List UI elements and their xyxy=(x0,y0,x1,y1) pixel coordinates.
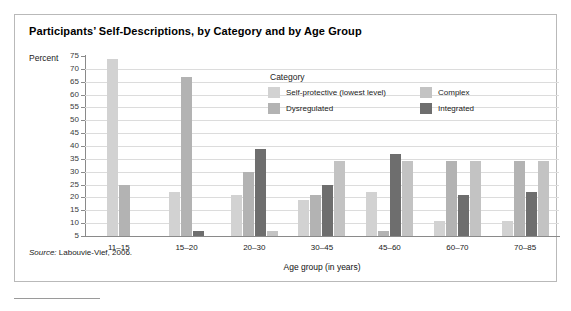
legend-item-dysregulated: Dysregulated xyxy=(268,103,420,114)
bar xyxy=(193,231,204,236)
y-tick-label: 50 xyxy=(59,115,79,124)
footer-divider xyxy=(14,298,100,299)
y-tick-label: 75 xyxy=(59,51,79,60)
x-tick-label: 45–60 xyxy=(356,243,424,252)
legend-swatch-complex xyxy=(420,87,432,98)
bar xyxy=(298,200,309,236)
bar-group xyxy=(153,56,221,236)
gridline xyxy=(85,236,559,237)
y-tick-label: 70 xyxy=(59,64,79,73)
bar xyxy=(366,192,377,236)
legend-swatch-dysregulated xyxy=(268,103,280,114)
source-text: Labouvie-Vief, 2006. xyxy=(59,248,132,257)
chart-figure: Participants’ Self-Descriptions, by Cate… xyxy=(0,0,571,311)
bar xyxy=(446,161,457,236)
bar xyxy=(243,172,254,236)
figure-card: Participants’ Self-Descriptions, by Cate… xyxy=(14,14,557,282)
legend-item-self-protective: Self-protective (lowest level) xyxy=(268,87,420,98)
source-prefix: Source: xyxy=(29,248,57,257)
legend-label-dysregulated: Dysregulated xyxy=(286,104,333,113)
legend-swatch-self-protective xyxy=(268,87,280,98)
y-tick-label: 20 xyxy=(59,192,79,201)
x-tick-label: 30–45 xyxy=(288,243,356,252)
legend-label-complex: Complex xyxy=(438,88,470,97)
y-axis-label: Percent xyxy=(29,53,58,63)
x-tick-label: 15–20 xyxy=(153,243,221,252)
legend-row: Dysregulated Integrated xyxy=(268,103,518,114)
bar-group xyxy=(85,56,153,236)
y-tick-label: 40 xyxy=(59,141,79,150)
x-tick-label: 20–30 xyxy=(220,243,288,252)
bar xyxy=(310,195,321,236)
bar xyxy=(458,195,469,236)
x-axis-title: Age group (in years) xyxy=(85,262,559,272)
bar xyxy=(322,185,333,236)
bar xyxy=(434,221,445,236)
y-tick-label: 35 xyxy=(59,154,79,163)
bar xyxy=(255,149,266,236)
bar xyxy=(470,161,481,236)
bar xyxy=(390,154,401,236)
legend-item-complex: Complex xyxy=(420,87,470,98)
legend-swatch-integrated xyxy=(420,103,432,114)
bar xyxy=(538,161,549,236)
legend-label-integrated: Integrated xyxy=(438,104,474,113)
source-note: Source: Labouvie-Vief, 2006. xyxy=(29,248,132,257)
y-tick-label: 25 xyxy=(59,180,79,189)
bar xyxy=(231,195,242,236)
bar xyxy=(267,231,278,236)
y-tick-label: 10 xyxy=(59,218,79,227)
legend-item-integrated: Integrated xyxy=(420,103,474,114)
plot-area: Category Self-protective (lowest level) … xyxy=(85,56,559,236)
y-tick-label: 5 xyxy=(59,231,79,240)
y-tick-label: 55 xyxy=(59,102,79,111)
bar xyxy=(514,161,525,236)
y-tick-label: 15 xyxy=(59,205,79,214)
y-tick-label: 30 xyxy=(59,167,79,176)
bar xyxy=(181,77,192,236)
bar xyxy=(402,161,413,236)
chart-title: Participants’ Self-Descriptions, by Cate… xyxy=(29,25,362,37)
y-tick-label: 45 xyxy=(59,128,79,137)
bar xyxy=(526,192,537,236)
bar xyxy=(119,185,130,236)
chart-legend: Category Self-protective (lowest level) … xyxy=(268,72,518,119)
bar xyxy=(107,59,118,236)
bar xyxy=(334,161,345,236)
y-tick-label: 60 xyxy=(59,90,79,99)
legend-label-self-protective: Self-protective (lowest level) xyxy=(286,88,386,97)
y-tick-mark xyxy=(81,236,85,237)
bar xyxy=(169,192,180,236)
x-tick-label: 60–70 xyxy=(424,243,492,252)
legend-title: Category xyxy=(270,72,518,82)
x-tick-label: 70–85 xyxy=(491,243,559,252)
legend-row: Self-protective (lowest level) Complex xyxy=(268,87,518,98)
y-tick-label: 65 xyxy=(59,77,79,86)
bar xyxy=(502,221,513,236)
bar xyxy=(378,231,389,236)
